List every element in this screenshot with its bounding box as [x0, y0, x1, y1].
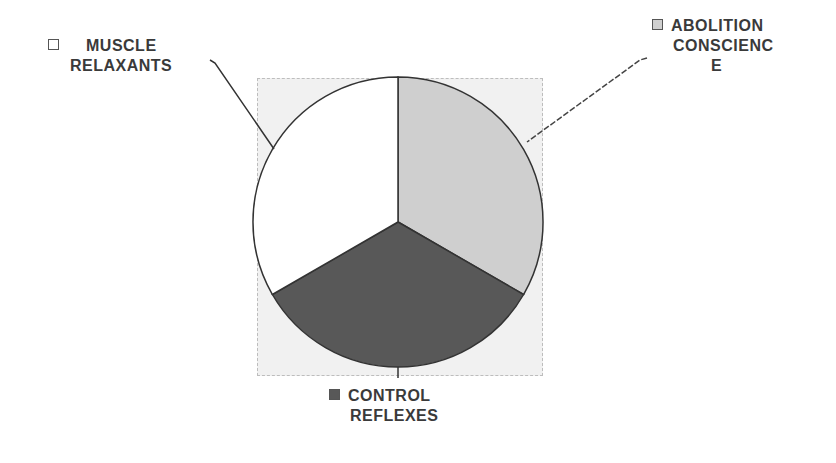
leader-line-abolition: [527, 58, 647, 142]
legend-swatch-white: [48, 39, 59, 50]
label-control-reflexes: CONTROL REFLEXES: [329, 386, 438, 426]
label-abolition-conscience: ABOLITION CONSCIENC E: [652, 16, 774, 76]
label-muscle-relaxants: MUSCLE RELAXANTS: [48, 36, 172, 76]
legend-swatch-dark-gray: [329, 389, 340, 400]
leader-line-muscle: [210, 60, 274, 149]
legend-swatch-light-gray: [652, 19, 663, 30]
